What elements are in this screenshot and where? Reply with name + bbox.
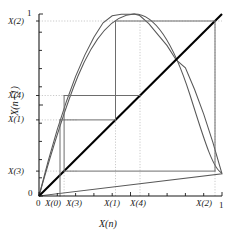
x-tick-label-x4: X(4) [130, 199, 146, 208]
y-tick-label-1: 1 [27, 9, 32, 18]
x-tick-label-x0: X(0) [45, 199, 61, 208]
x-tick-label-x3: X(3) [66, 199, 82, 208]
y-axis-title: X(n+1) [10, 73, 20, 129]
x-axis-title: X(n) [99, 219, 117, 229]
x-tick-label-x1: X(1) [104, 199, 120, 208]
x-tick-label-x2: X(2) [196, 199, 212, 208]
x-tick-label-1: 1 [219, 201, 224, 210]
y-tick-label-x2: X(2) [8, 17, 24, 26]
y-tick-label-x3: X(3) [8, 167, 24, 176]
y-tick-label-0: 0 [28, 189, 33, 198]
x-tick-label-0: 0 [36, 199, 41, 208]
